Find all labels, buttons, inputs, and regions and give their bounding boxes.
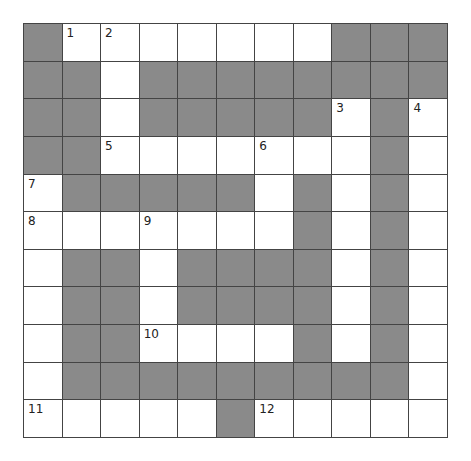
- block-cell: [294, 175, 332, 212]
- block-cell: [24, 137, 62, 174]
- block-cell: [101, 175, 139, 212]
- block-cell: [178, 250, 216, 287]
- answer-cell[interactable]: [101, 212, 139, 249]
- answer-cell[interactable]: [217, 24, 255, 61]
- answer-cell[interactable]: [409, 287, 447, 324]
- block-cell: [294, 250, 332, 287]
- answer-cell[interactable]: [255, 325, 293, 362]
- block-cell: [332, 62, 370, 99]
- clue-number: 6: [259, 139, 267, 153]
- answer-cell[interactable]: [409, 325, 447, 362]
- block-cell: [332, 24, 370, 61]
- answer-cell[interactable]: [371, 400, 409, 437]
- answer-cell[interactable]: [409, 137, 447, 174]
- answer-cell[interactable]: [178, 137, 216, 174]
- answer-cell[interactable]: [332, 175, 370, 212]
- answer-cell[interactable]: 11: [24, 400, 62, 437]
- answer-cell[interactable]: [140, 400, 178, 437]
- answer-cell[interactable]: 3: [332, 99, 370, 136]
- answer-cell[interactable]: [294, 400, 332, 437]
- answer-cell[interactable]: 4: [409, 99, 447, 136]
- answer-cell[interactable]: [217, 325, 255, 362]
- block-cell: [217, 287, 255, 324]
- block-cell: [371, 24, 409, 61]
- answer-cell[interactable]: [409, 250, 447, 287]
- answer-cell[interactable]: [255, 24, 293, 61]
- answer-cell[interactable]: [332, 137, 370, 174]
- block-cell: [294, 363, 332, 400]
- answer-cell[interactable]: [255, 212, 293, 249]
- answer-cell[interactable]: [332, 400, 370, 437]
- block-cell: [140, 62, 178, 99]
- block-cell: [255, 99, 293, 136]
- answer-cell[interactable]: [409, 212, 447, 249]
- answer-cell[interactable]: [178, 212, 216, 249]
- block-cell: [24, 99, 62, 136]
- answer-cell[interactable]: 12: [255, 400, 293, 437]
- block-cell: [217, 175, 255, 212]
- answer-cell[interactable]: [140, 24, 178, 61]
- block-cell: [217, 62, 255, 99]
- block-cell: [255, 250, 293, 287]
- answer-cell[interactable]: [178, 325, 216, 362]
- block-cell: [371, 363, 409, 400]
- answer-cell[interactable]: [63, 400, 101, 437]
- block-cell: [63, 363, 101, 400]
- block-cell: [409, 62, 447, 99]
- answer-cell[interactable]: [101, 99, 139, 136]
- answer-cell[interactable]: [140, 287, 178, 324]
- answer-cell[interactable]: [217, 137, 255, 174]
- block-cell: [294, 287, 332, 324]
- block-cell: [294, 325, 332, 362]
- answer-cell[interactable]: [24, 325, 62, 362]
- answer-cell[interactable]: [101, 400, 139, 437]
- answer-cell[interactable]: [332, 212, 370, 249]
- answer-cell[interactable]: 2: [101, 24, 139, 61]
- answer-cell[interactable]: [63, 212, 101, 249]
- answer-cell[interactable]: [24, 287, 62, 324]
- block-cell: [24, 62, 62, 99]
- answer-cell[interactable]: [101, 62, 139, 99]
- block-cell: [217, 363, 255, 400]
- answer-cell[interactable]: 9: [140, 212, 178, 249]
- answer-cell[interactable]: 6: [255, 137, 293, 174]
- clue-number: 7: [28, 177, 36, 191]
- answer-cell[interactable]: [178, 24, 216, 61]
- answer-cell[interactable]: [332, 325, 370, 362]
- answer-cell[interactable]: [255, 175, 293, 212]
- clue-number: 5: [105, 139, 113, 153]
- block-cell: [294, 212, 332, 249]
- answer-cell[interactable]: 7: [24, 175, 62, 212]
- answer-cell[interactable]: [294, 24, 332, 61]
- answer-cell[interactable]: [332, 250, 370, 287]
- answer-cell[interactable]: [217, 212, 255, 249]
- block-cell: [178, 175, 216, 212]
- answer-cell[interactable]: [24, 250, 62, 287]
- answer-cell[interactable]: [178, 400, 216, 437]
- clue-number: 9: [144, 214, 152, 228]
- clue-number: 4: [413, 101, 421, 115]
- clue-number: 11: [28, 402, 43, 416]
- block-cell: [217, 250, 255, 287]
- block-cell: [101, 363, 139, 400]
- answer-cell[interactable]: 10: [140, 325, 178, 362]
- answer-cell[interactable]: [332, 287, 370, 324]
- answer-cell[interactable]: 8: [24, 212, 62, 249]
- block-cell: [140, 363, 178, 400]
- block-cell: [140, 175, 178, 212]
- answer-cell[interactable]: 5: [101, 137, 139, 174]
- answer-cell[interactable]: [24, 363, 62, 400]
- crossword-grid: 123456789101112: [23, 23, 448, 438]
- block-cell: [371, 287, 409, 324]
- block-cell: [63, 175, 101, 212]
- answer-cell[interactable]: [409, 363, 447, 400]
- block-cell: [409, 24, 447, 61]
- answer-cell[interactable]: [409, 400, 447, 437]
- block-cell: [217, 400, 255, 437]
- answer-cell[interactable]: 1: [63, 24, 101, 61]
- block-cell: [63, 137, 101, 174]
- answer-cell[interactable]: [140, 250, 178, 287]
- answer-cell[interactable]: [140, 137, 178, 174]
- answer-cell[interactable]: [294, 137, 332, 174]
- answer-cell[interactable]: [409, 175, 447, 212]
